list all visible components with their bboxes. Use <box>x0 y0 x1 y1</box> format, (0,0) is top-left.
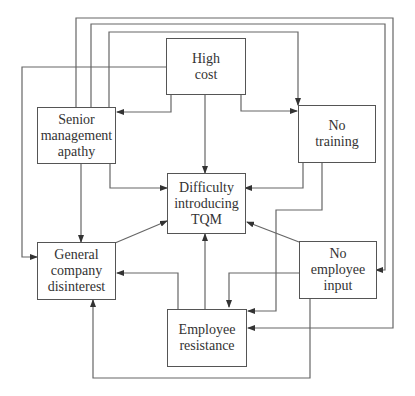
node-label-line: employee <box>311 262 365 278</box>
node-label-line: training <box>315 134 359 150</box>
node-high-cost: High cost <box>166 38 246 95</box>
node-label-line: No <box>329 246 346 262</box>
edge-highcost-notraining <box>241 94 297 111</box>
node-difficulty-introducing-tqm: Difficulty introducing TQM <box>167 173 246 234</box>
edge-highcost-senior <box>117 94 171 112</box>
edge-senior-tqm <box>110 163 167 188</box>
node-employee-resistance: Employee resistance <box>167 309 247 367</box>
node-label-line: resistance <box>179 338 234 354</box>
edge-resistance-general <box>117 273 178 310</box>
node-label-line: disinterest <box>48 279 106 295</box>
node-general-company-disinterest: General company disinterest <box>37 242 116 300</box>
edge-notraining-tqm <box>245 163 303 188</box>
node-senior-management-apathy: Senior management apathy <box>37 107 116 164</box>
edge-general-tqm <box>115 221 167 243</box>
node-no-training: No training <box>298 105 376 163</box>
node-label-line: cost <box>195 67 218 83</box>
edge-noinput-tqm <box>247 222 299 242</box>
node-label-line: TQM <box>191 212 222 228</box>
node-label-line: input <box>324 278 353 294</box>
node-label-line: Senior <box>58 112 95 128</box>
node-label-line: No <box>328 118 345 134</box>
node-label-line: Difficulty <box>179 180 234 196</box>
node-label-line: company <box>51 263 102 279</box>
node-label-line: High <box>192 51 220 67</box>
node-label-line: introducing <box>174 196 239 212</box>
node-label-line: Employee <box>179 322 236 338</box>
node-no-employee-input: No employee input <box>299 241 377 299</box>
node-label-line: management <box>41 128 113 144</box>
edge-noinput-resistance <box>229 273 299 307</box>
node-label-line: apathy <box>58 144 95 160</box>
node-label-line: General <box>54 247 98 263</box>
